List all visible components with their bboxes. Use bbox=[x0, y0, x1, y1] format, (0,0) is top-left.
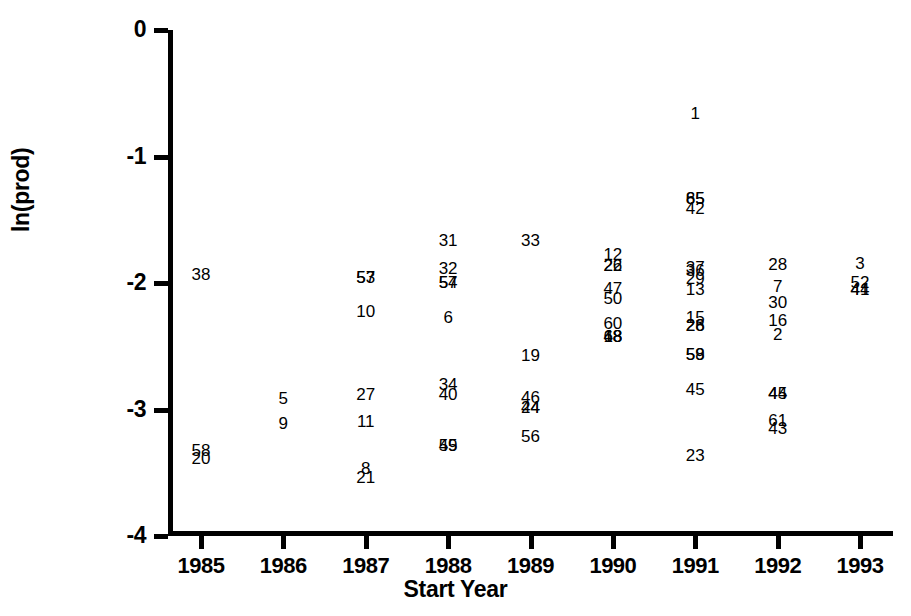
x-axis-tick bbox=[364, 536, 369, 549]
x-axis-tick-label: 1986 bbox=[238, 553, 328, 579]
data-point-label: 13 bbox=[686, 281, 705, 298]
data-point-label: 21 bbox=[356, 468, 375, 485]
data-point-label: 33 bbox=[521, 231, 540, 248]
x-axis-tick bbox=[529, 536, 534, 549]
y-axis-tick bbox=[154, 534, 168, 539]
y-axis-tick-label: -1 bbox=[127, 143, 146, 170]
data-point-label: 11 bbox=[357, 412, 375, 429]
data-point-label: 6 bbox=[443, 309, 452, 326]
y-axis-tick bbox=[154, 28, 168, 33]
x-axis-title: Start Year bbox=[0, 576, 911, 603]
x-axis-tick-label: 1985 bbox=[156, 553, 246, 579]
data-point-label: 23 bbox=[686, 447, 705, 464]
x-axis-tick bbox=[776, 536, 781, 549]
y-axis-title: ln(prod) bbox=[8, 148, 35, 232]
data-point-label: 1 bbox=[691, 105, 700, 122]
data-point-label: 9 bbox=[279, 415, 288, 432]
x-axis-tick-label: 1993 bbox=[815, 553, 905, 579]
y-axis-tick-label: -3 bbox=[127, 396, 146, 423]
data-point-label: 26 bbox=[603, 257, 622, 274]
x-axis-tick-label: 1987 bbox=[321, 553, 411, 579]
y-axis-tick bbox=[154, 408, 168, 413]
scatter-plot-figure: ln(prod) Start Year 0-1-2-3-4 1985198619… bbox=[0, 0, 911, 616]
data-point-label: 27 bbox=[356, 386, 375, 403]
y-axis-tick bbox=[154, 281, 168, 286]
data-point-label: 56 bbox=[521, 428, 540, 445]
x-axis-tick bbox=[199, 536, 204, 549]
data-point-label: 38 bbox=[191, 266, 210, 283]
x-axis-tick bbox=[693, 536, 698, 549]
data-point-label: 43 bbox=[768, 420, 787, 437]
data-point-label: 44 bbox=[521, 398, 540, 415]
data-point-label: 10 bbox=[356, 302, 375, 319]
data-point-label: 18 bbox=[603, 328, 622, 345]
x-axis-tick bbox=[281, 536, 286, 549]
y-axis-tick-label: -2 bbox=[127, 269, 146, 296]
data-point-label: 19 bbox=[521, 347, 540, 364]
data-point-label: 20 bbox=[191, 449, 210, 466]
data-point-label: 57 bbox=[439, 273, 458, 290]
x-axis-tick-label: 1991 bbox=[650, 553, 740, 579]
data-point-label: 53 bbox=[356, 268, 375, 285]
data-point-label: 55 bbox=[439, 436, 458, 453]
data-point-label: 5 bbox=[279, 390, 288, 407]
data-point-label: 7 bbox=[773, 277, 782, 294]
data-point-label: 44 bbox=[851, 281, 870, 298]
data-point-label: 31 bbox=[439, 231, 458, 248]
y-axis-line bbox=[168, 30, 173, 536]
y-axis-tick-label: -4 bbox=[127, 522, 146, 549]
data-point-label: 3 bbox=[855, 254, 864, 271]
data-point-label: 28 bbox=[768, 256, 787, 273]
plot-area: 0-1-2-3-4 198519861987198819891990199119… bbox=[168, 30, 893, 536]
data-point-label: 30 bbox=[768, 293, 787, 310]
data-point-label: 2 bbox=[773, 325, 782, 342]
y-axis-tick bbox=[154, 155, 168, 160]
data-point-label: 45 bbox=[686, 381, 705, 398]
x-axis-tick-label: 1992 bbox=[733, 553, 823, 579]
data-point-label: 45 bbox=[768, 385, 787, 402]
data-point-label: 59 bbox=[686, 345, 705, 362]
x-axis-tick-label: 1988 bbox=[403, 553, 493, 579]
data-point-label: 50 bbox=[603, 290, 622, 307]
data-point-label: 42 bbox=[686, 200, 705, 217]
data-point-label: 26 bbox=[686, 316, 705, 333]
x-axis-tick bbox=[611, 536, 616, 549]
y-axis-tick-label: 0 bbox=[134, 16, 146, 43]
data-point-label: 40 bbox=[439, 386, 458, 403]
x-axis-tick bbox=[858, 536, 863, 549]
x-axis-tick bbox=[446, 536, 451, 549]
x-axis-tick-label: 1990 bbox=[568, 553, 658, 579]
x-axis-tick-label: 1989 bbox=[486, 553, 576, 579]
